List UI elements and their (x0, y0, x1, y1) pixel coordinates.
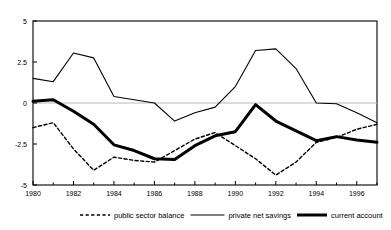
x-tick-label: 1992 (268, 190, 284, 197)
chart-legend: public sector balanceprivate net savings… (80, 211, 384, 220)
series-line-public-sector-balance (33, 123, 377, 175)
y-tick-label: 5 (23, 18, 27, 25)
legend-label: private net savings (228, 211, 291, 220)
series-line-current-account (33, 100, 377, 160)
x-axis-ticks (33, 181, 377, 185)
economic-balances-line-chart: 52.50-2.5-5 1980198219841986198819901992… (0, 0, 391, 230)
series-line-private-net-savings (33, 49, 377, 123)
y-tick-label: -5 (21, 182, 27, 189)
legend-label: public sector balance (114, 211, 184, 220)
x-tick-label: 1990 (228, 190, 244, 197)
x-tick-label: 1988 (187, 190, 203, 197)
x-axis-tick-labels: 198019821984198619881990199219941996 (25, 190, 364, 197)
y-tick-label: 0 (23, 100, 27, 107)
x-tick-label: 1982 (66, 190, 82, 197)
x-tick-label: 1994 (309, 190, 325, 197)
data-series-lines (33, 49, 377, 175)
x-tick-label: 1996 (349, 190, 365, 197)
legend-label: current account (331, 211, 384, 220)
chart-container: 52.50-2.5-5 1980198219841986198819901992… (0, 0, 391, 230)
y-axis-ticks (33, 21, 37, 185)
x-tick-label: 1986 (147, 190, 163, 197)
x-tick-label: 1980 (25, 190, 41, 197)
y-tick-label: 2.5 (17, 59, 27, 66)
y-axis-tick-labels: 52.50-2.5-5 (15, 18, 27, 189)
x-tick-label: 1984 (106, 190, 122, 197)
y-tick-label: -2.5 (15, 141, 27, 148)
